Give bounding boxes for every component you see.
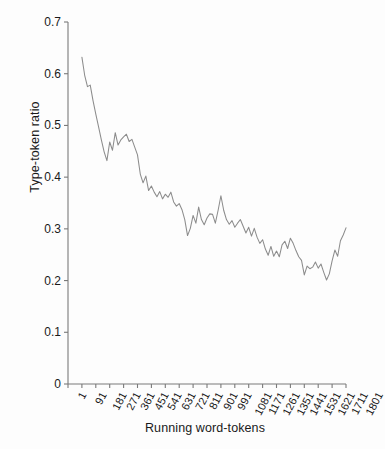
y-tick-marks bbox=[64, 22, 68, 384]
axis-lines bbox=[68, 22, 346, 384]
data-series-line bbox=[82, 57, 346, 280]
x-tick-marks bbox=[68, 384, 346, 388]
